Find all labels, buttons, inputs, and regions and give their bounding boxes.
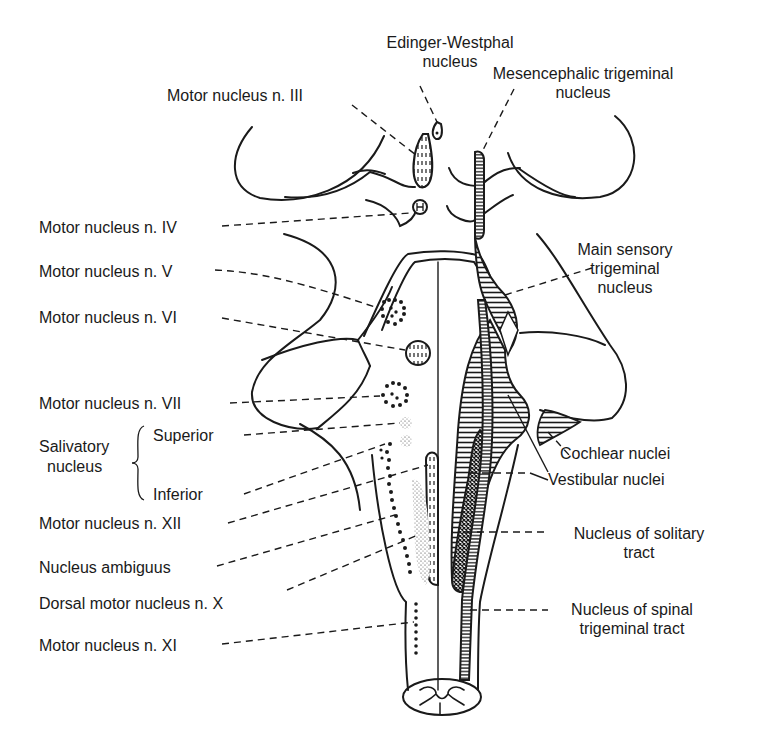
label-line: nucleus <box>39 457 109 477</box>
label-salivatory-superior: Superior <box>153 426 213 445</box>
label-motor-iv: Motor nucleus n. IV <box>39 218 177 237</box>
label-line: trigeminal tract <box>548 619 716 638</box>
leader-ambiguus <box>217 515 395 566</box>
motor-xii-nucleus <box>379 442 412 574</box>
superior-salivatory-nucleus <box>400 417 412 429</box>
medulla-left-outline <box>372 455 408 690</box>
cochlear-nuclei <box>538 410 580 445</box>
label-mesencephalic-trigeminal: Mesencephalic trigeminal nucleus <box>478 64 688 102</box>
leader-motor-vi <box>222 318 405 350</box>
right-peduncle-outline <box>508 116 634 198</box>
label-line: nucleus <box>478 83 688 102</box>
label-line: tract <box>548 543 730 562</box>
label-solitary-tract: Nucleus of solitary tract <box>548 524 730 562</box>
label-dorsal-motor-x: Dorsal motor nucleus n. X <box>39 594 223 613</box>
leader-motor-xi <box>222 622 414 644</box>
label-nucleus-ambiguus: Nucleus ambiguus <box>39 558 171 577</box>
label-line: trigeminal <box>560 259 690 278</box>
label-motor-xii: Motor nucleus n. XII <box>39 514 181 533</box>
motor-vii-nucleus <box>381 381 409 408</box>
label-motor-iii: Motor nucleus n. III <box>167 86 303 105</box>
label-salivatory-inferior: Inferior <box>153 485 203 504</box>
label-line: Nucleus of solitary <box>548 524 730 543</box>
leader-inferior-salivatory <box>244 444 385 494</box>
leader-dorsal-x <box>287 535 418 590</box>
leader-motor-iv <box>222 213 410 226</box>
label-line: Nucleus of spinal <box>548 600 716 619</box>
leader-motor-iii <box>352 105 416 155</box>
label-motor-xi: Motor nucleus n. XI <box>39 636 177 655</box>
edinger-westphal-nucleus <box>433 122 442 139</box>
salivatory-brace-icon <box>130 423 148 503</box>
label-line: Salivatory <box>39 437 109 457</box>
motor-vi-nucleus <box>406 341 430 365</box>
label-cochlear-nuclei: Cochlear nuclei <box>560 444 670 463</box>
label-spinal-trigeminal: Nucleus of spinal trigeminal tract <box>548 600 716 638</box>
spinal-cord-section <box>403 679 481 715</box>
label-motor-v: Motor nucleus n. V <box>39 262 172 281</box>
label-line: Mesencephalic trigeminal <box>478 64 688 83</box>
label-vestibular-nuclei: Vestibular nuclei <box>548 470 665 489</box>
left-peduncle-outline <box>235 127 384 200</box>
label-line: Edinger-Westphal <box>370 33 530 52</box>
motor-xi-nucleus <box>414 602 418 655</box>
mesencephalic-trigeminal-nucleus <box>475 151 484 238</box>
leader-motor-xii <box>228 465 428 523</box>
label-main-sensory-trigeminal: Main sensory trigeminal nucleus <box>560 240 690 297</box>
label-line: nucleus <box>560 278 690 297</box>
brainstem-diagram: Edinger-Westphal nucleus Motor nucleus n… <box>0 0 765 732</box>
motor-iii-nucleus <box>414 134 433 187</box>
inferior-salivatory-nucleus <box>400 435 412 447</box>
label-line: Main sensory <box>560 240 690 259</box>
label-motor-vii: Motor nucleus n. VII <box>39 394 181 413</box>
label-salivatory-group: Salivatory nucleus <box>39 437 109 477</box>
leader-edinger-westphal <box>420 86 437 122</box>
label-motor-vi: Motor nucleus n. VI <box>39 308 177 327</box>
leader-motor-v <box>215 270 378 308</box>
